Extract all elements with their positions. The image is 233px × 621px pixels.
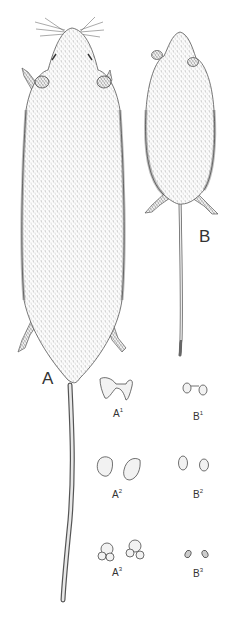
label-a1: A1 (113, 407, 123, 419)
specimen-b (145, 32, 218, 355)
teeth-b1 (183, 383, 207, 395)
label-a3: A3 (112, 566, 122, 578)
label-specimen-b: B (199, 228, 210, 245)
label-b1: B1 (193, 410, 203, 422)
teeth-a3 (98, 540, 144, 561)
label-b2: B2 (193, 488, 203, 500)
label-a2: A2 (112, 488, 122, 500)
teeth-a2 (97, 457, 140, 480)
teeth-a1 (100, 378, 132, 400)
label-specimen-a: A (42, 370, 53, 387)
specimen-a (18, 17, 126, 600)
illustration-plate: A B A1 B1 A2 B2 A3 B3 (0, 0, 233, 621)
rodent-illustration (0, 0, 233, 621)
teeth-b3 (184, 549, 209, 558)
label-b3: B3 (193, 567, 203, 579)
teeth-b2 (179, 456, 209, 471)
